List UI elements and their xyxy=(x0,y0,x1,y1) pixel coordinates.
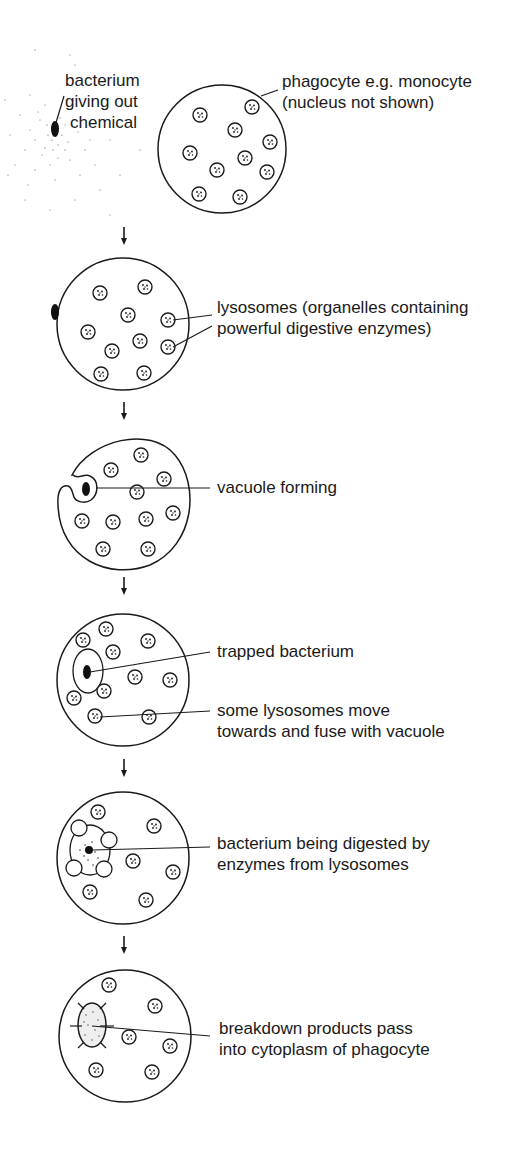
label-line: into cytoplasm of phagocyte xyxy=(219,1039,430,1060)
label-lysosomes: lysosomes (organelles containing powerfu… xyxy=(217,297,468,339)
label-being-digested: bacterium being digested by enzymes from… xyxy=(217,833,430,875)
phagocyte-stage-3 xyxy=(58,439,210,570)
label-line: (nucleus not shown) xyxy=(282,92,472,113)
label-line: phagocyte e.g. monocyte xyxy=(282,71,472,92)
arrow-icon xyxy=(121,936,127,954)
arrow-icon xyxy=(121,402,127,420)
label-line: bacterium being digested by xyxy=(217,833,430,854)
label-line: powerful digestive enzymes) xyxy=(217,318,468,339)
label-breakdown-products: breakdown products pass into cytoplasm o… xyxy=(219,1018,430,1060)
label-line: bacterium xyxy=(65,70,140,91)
phagocyte-stage-1 xyxy=(158,85,286,213)
bacterium xyxy=(51,121,59,137)
label-line: lysosomes (organelles containing xyxy=(217,297,468,318)
label-line: trapped bacterium xyxy=(217,641,354,662)
label-line: towards and fuse with vacuole xyxy=(217,721,445,742)
label-phagocyte: phagocyte e.g. monocyte (nucleus not sho… xyxy=(282,71,472,113)
label-line: vacuole forming xyxy=(217,477,337,498)
phagocytosis-diagram xyxy=(0,0,521,1152)
label-line: some lysosomes move xyxy=(217,700,445,721)
phagocyte-stage-5 xyxy=(57,792,210,924)
arrow-icon xyxy=(121,577,127,595)
phagocyte-stage-2 xyxy=(51,258,212,390)
label-line: enzymes from lysosomes xyxy=(217,854,430,875)
arrow-icon xyxy=(121,759,127,777)
label-line: giving out xyxy=(65,91,140,112)
phagocyte-stage-6 xyxy=(59,970,210,1102)
label-line: chemical xyxy=(65,112,140,133)
label-lysosomes-fuse: some lysosomes move towards and fuse wit… xyxy=(217,700,445,742)
phagocyte-stage-4 xyxy=(57,614,210,746)
label-line: breakdown products pass xyxy=(219,1018,430,1039)
label-bacterium: bacterium giving out chemical xyxy=(65,70,140,133)
arrow-icon xyxy=(121,227,127,245)
label-vacuole-forming: vacuole forming xyxy=(217,477,337,498)
label-trapped-bacterium: trapped bacterium xyxy=(217,641,354,662)
